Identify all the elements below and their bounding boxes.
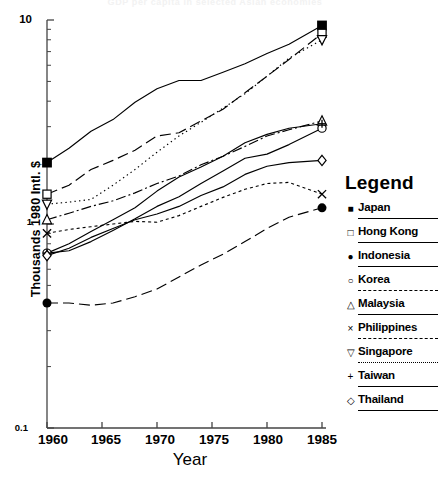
legend-label: Taiwan	[358, 369, 438, 381]
legend-marker-korea-icon: ○	[343, 273, 358, 287]
legend-line-sample	[358, 214, 438, 219]
axis-lines	[47, 20, 326, 428]
legend-marker-thailand-icon: ◇	[343, 393, 358, 407]
legend-line-sample	[358, 238, 438, 243]
legend-marker-japan-icon: ■	[343, 201, 358, 215]
legend-marker-singapore-icon: ▽	[343, 345, 358, 359]
chart-container: GDP per capita in selected Asian economi…	[0, 0, 438, 481]
legend-item-hong-kong[interactable]: □Hong Kong	[343, 225, 438, 249]
legend-item-philippines[interactable]: ×Philippines	[343, 321, 438, 345]
legend-marker-taiwan-icon: +	[343, 369, 358, 383]
legend-label: Indonesia	[358, 249, 438, 261]
legend-item-singapore[interactable]: ▽Singapore	[343, 345, 438, 369]
legend-title: Legend	[345, 172, 438, 194]
series-lines	[47, 26, 322, 306]
legend-marker-hong-kong-icon: □	[343, 225, 358, 239]
legend-line-sample	[358, 262, 438, 267]
legend-label: Singapore	[358, 345, 438, 357]
legend-marker-indonesia-icon: ●	[343, 249, 358, 263]
legend-line-sample	[358, 310, 438, 315]
legend-item-korea[interactable]: ○Korea	[343, 273, 438, 297]
legend: Legend ■Japan□Hong Kong●Indonesia○Korea△…	[343, 172, 438, 417]
legend-line-sample	[358, 358, 438, 363]
legend-marker-philippines-icon: ×	[343, 321, 358, 335]
legend-label: Japan	[358, 201, 438, 213]
legend-label: Philippines	[358, 321, 438, 333]
legend-label: Hong Kong	[358, 225, 438, 237]
legend-label: Malaysia	[358, 297, 438, 309]
legend-label: Thailand	[358, 393, 438, 405]
legend-item-malaysia[interactable]: △Malaysia	[343, 297, 438, 321]
legend-item-indonesia[interactable]: ●Indonesia	[343, 249, 438, 273]
legend-label: Korea	[358, 273, 438, 285]
legend-line-sample	[358, 406, 438, 411]
legend-line-sample	[358, 382, 438, 387]
legend-line-sample	[358, 286, 438, 291]
legend-line-sample	[358, 334, 438, 339]
legend-item-japan[interactable]: ■Japan	[343, 201, 438, 225]
legend-marker-malaysia-icon: △	[343, 297, 358, 311]
legend-item-taiwan[interactable]: +Taiwan	[343, 369, 438, 393]
legend-item-thailand[interactable]: ◇Thailand	[343, 393, 438, 417]
